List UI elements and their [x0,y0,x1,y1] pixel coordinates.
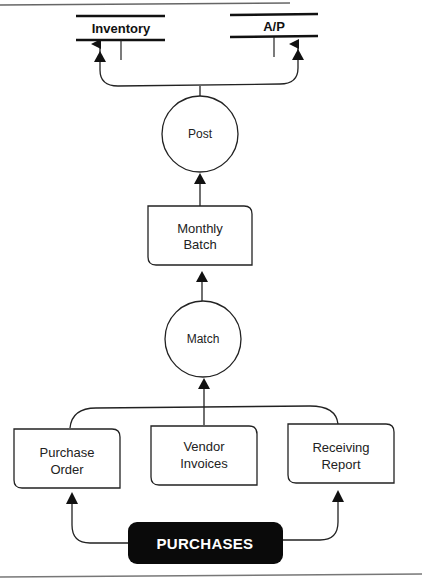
store-bottom-line [230,36,318,37]
inventory-label: Inventory [92,21,151,36]
bottom-frame-line [0,574,422,577]
purchase-order-line1: Purchase [40,445,95,460]
arrowhead-purchase-order [66,492,78,504]
data-flow-diagram: Inventory A/P Post Monthly Batch Match [0,0,422,582]
external-entity-purchases[interactable]: PURCHASES [128,522,283,564]
process-match[interactable]: Match [165,301,241,377]
vendor-invoices-line2: Invoices [180,456,228,471]
purchase-order-line2: Order [50,462,84,477]
arrowhead-batch [196,271,208,282]
document-receiving-report[interactable]: Receiving Report [288,424,394,483]
arrowhead-ap [292,49,304,60]
match-label: Match [187,332,220,346]
flow-purchases-to-rr [282,501,338,540]
arrowhead-inventory [94,51,106,62]
process-post[interactable]: Post [162,96,238,172]
document-vendor-invoices[interactable]: Vendor Invoices [151,426,257,485]
document-monthly-batch[interactable]: Monthly Batch [148,206,252,265]
store-top-line [230,14,318,15]
arrowhead-match [198,378,210,389]
receiving-report-line2: Report [321,457,360,472]
arrowhead-post [194,173,206,184]
top-frame-line [0,3,290,5]
data-store-inventory[interactable]: Inventory [76,16,165,60]
post-label: Post [188,127,213,141]
ap-label: A/P [263,19,285,34]
document-purchase-order[interactable]: Purchase Order [14,429,120,488]
vendor-invoices-line1: Vendor [183,439,225,454]
monthly-batch-line1: Monthly [177,221,223,236]
flow-post-to-stores [100,44,298,98]
data-store-ap[interactable]: A/P [230,14,318,57]
arrowhead-receiving-report [332,490,344,502]
purchases-label: PURCHASES [157,535,254,552]
flow-purchases-to-po [72,503,129,543]
monthly-batch-line2: Batch [183,237,216,252]
receiving-report-line1: Receiving [312,440,369,455]
